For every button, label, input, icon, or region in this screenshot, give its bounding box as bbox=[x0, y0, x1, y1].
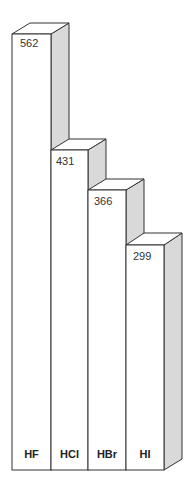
category-label-hi: HI bbox=[126, 448, 164, 460]
value-label-hcl: 431 bbox=[56, 155, 74, 167]
category-label-hcl: HCl bbox=[51, 448, 88, 460]
bar-hf-front bbox=[12, 34, 51, 470]
bar-hi-side bbox=[164, 233, 182, 470]
value-label-hi: 299 bbox=[133, 250, 151, 262]
value-label-hf: 562 bbox=[20, 37, 38, 49]
bar-hcl-front bbox=[51, 150, 88, 470]
bar-hi-front bbox=[126, 245, 164, 470]
bar-hbr-front bbox=[88, 190, 126, 470]
category-label-hf: HF bbox=[12, 448, 51, 460]
bar-chart-3d bbox=[0, 0, 191, 483]
value-label-hbr: 366 bbox=[94, 195, 112, 207]
category-label-hbr: HBr bbox=[88, 448, 126, 460]
